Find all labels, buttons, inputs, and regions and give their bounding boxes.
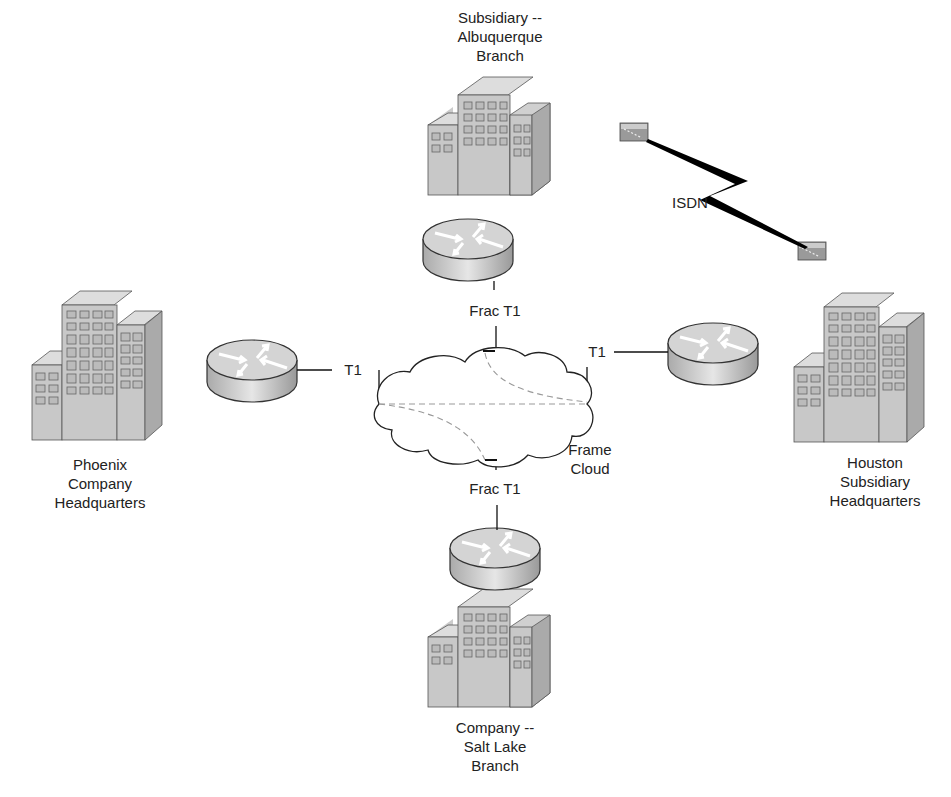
houston-router-icon — [668, 323, 758, 385]
isdn-device-top-icon — [620, 123, 648, 141]
frame-cloud-label: Frame Cloud — [555, 440, 625, 478]
phoenix-router-icon — [207, 340, 297, 402]
saltlake-building-icon — [428, 589, 550, 707]
saltlake-label: Company -- Salt Lake Branch — [420, 718, 570, 775]
albuquerque-router-icon — [423, 219, 513, 281]
phoenix-label: Phoenix Company Headquarters — [35, 455, 165, 512]
left-link-label: T1 — [338, 360, 368, 379]
phoenix-building-icon — [32, 291, 162, 440]
isdn-label: ISDN — [665, 193, 715, 212]
top-link-label: Frac T1 — [455, 301, 535, 320]
houston-building-icon — [794, 293, 924, 442]
network-diagram — [0, 0, 951, 797]
right-link-label: T1 — [582, 342, 612, 361]
albuquerque-label: Subsidiary -- Albuquerque Branch — [425, 8, 575, 65]
houston-label: Houston Subsidiary Headquarters — [800, 453, 950, 510]
saltlake-router-icon — [450, 528, 540, 590]
bottom-link-label: Frac T1 — [455, 479, 535, 498]
albuquerque-building-icon — [428, 77, 550, 195]
